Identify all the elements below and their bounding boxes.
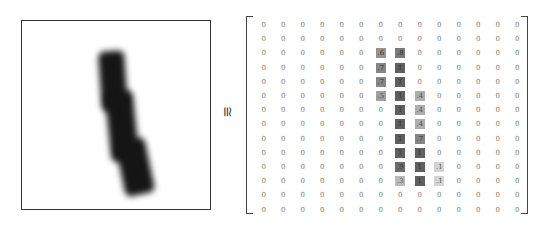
matrix-cell: 0 — [508, 188, 528, 202]
matrix-cell: 0 — [254, 117, 274, 131]
matrix-cell-value: 0 — [259, 20, 269, 30]
matrix-cell-value: 0 — [259, 34, 269, 44]
matrix-cell-value: 0 — [454, 48, 464, 58]
matrix-cell: 0 — [332, 89, 352, 103]
matrix-cell-value: 0 — [298, 77, 308, 87]
matrix-cell-value: 0 — [454, 205, 464, 215]
matrix-cell: 0 — [391, 32, 411, 46]
matrix-cell-value: 0 — [493, 205, 503, 215]
matrix-cell: 0 — [430, 202, 450, 216]
matrix-cell-value: 0 — [259, 148, 269, 158]
matrix-cell-value: 0 — [298, 162, 308, 172]
pixel-matrix: 0000000000000000000000000000000000.6.800… — [246, 16, 528, 214]
approx-equal-symbol: ≅ — [220, 106, 236, 118]
matrix-cell-value: 0 — [356, 190, 366, 200]
matrix-cell-value: 0 — [493, 190, 503, 200]
matrix-cell: 0 — [274, 18, 294, 32]
matrix-cell-value: 0 — [259, 77, 269, 87]
matrix-cell: 0 — [352, 61, 372, 75]
matrix-cell: 0 — [508, 146, 528, 160]
matrix-cell: 0 — [488, 132, 508, 146]
matrix-cell: 0 — [293, 117, 313, 131]
matrix-cell: 0 — [508, 174, 528, 188]
matrix-cell-value: 0 — [356, 134, 366, 144]
matrix-cell-value: 0 — [337, 162, 347, 172]
matrix-cell: 0 — [313, 103, 333, 117]
matrix-cell-value: 0 — [473, 91, 483, 101]
matrix-cell: .9 — [391, 160, 411, 174]
matrix-cell: 0 — [274, 132, 294, 146]
matrix-cell-value: 0 — [278, 91, 288, 101]
matrix-cell-value: 0 — [337, 34, 347, 44]
matrix-cell: 0 — [313, 61, 333, 75]
matrix-cell-value: 0 — [512, 20, 522, 30]
matrix-cell: 0 — [430, 103, 450, 117]
matrix-cell-value: 0 — [337, 205, 347, 215]
matrix-cell-value: 0 — [356, 34, 366, 44]
matrix-cell-value: .5 — [376, 91, 386, 101]
matrix-cell-value: 0 — [415, 20, 425, 30]
matrix-cell-value: 0 — [356, 105, 366, 115]
matrix-cell: 0 — [469, 18, 489, 32]
matrix-cell-value: .1 — [434, 176, 444, 186]
matrix-cell-value: 0 — [278, 205, 288, 215]
matrix-cell: 0 — [391, 188, 411, 202]
matrix-cell-value: 0 — [337, 190, 347, 200]
matrix-cell-value: 0 — [317, 162, 327, 172]
matrix-cell-value: 0 — [512, 205, 522, 215]
matrix-cell-value: 0 — [317, 105, 327, 115]
matrix-cell-value: 0 — [454, 77, 464, 87]
matrix-cell: 0 — [332, 146, 352, 160]
matrix-cell-value: .4 — [415, 105, 425, 115]
matrix-cell-value: .1 — [434, 162, 444, 172]
matrix-cell-value: 0 — [473, 176, 483, 186]
matrix-cell-value: 0 — [356, 48, 366, 58]
matrix-cell-value: 0 — [356, 20, 366, 30]
matrix-cell-value: 1 — [395, 105, 405, 115]
matrix-cell: 0 — [449, 132, 469, 146]
matrix-cell-value: 0 — [473, 190, 483, 200]
matrix-cell-value: 0 — [395, 20, 405, 30]
matrix-cell: 0 — [293, 75, 313, 89]
matrix-cell: 0 — [274, 174, 294, 188]
matrix-cell-value: 0 — [434, 205, 444, 215]
matrix-cell-value: 0 — [454, 63, 464, 73]
matrix-cell: 0 — [293, 132, 313, 146]
matrix-cell-value: 0 — [473, 134, 483, 144]
matrix-cell-value: 0 — [493, 105, 503, 115]
matrix-cell-value: 0 — [298, 190, 308, 200]
matrix-cell: 0 — [430, 146, 450, 160]
matrix-cell-value: .3 — [395, 176, 405, 186]
matrix-cell-value: 0 — [415, 190, 425, 200]
matrix-cell: 0 — [488, 18, 508, 32]
matrix-cell-value: 0 — [356, 77, 366, 87]
matrix-cell-value: 0 — [415, 34, 425, 44]
matrix-cell-value: 0 — [473, 20, 483, 30]
matrix-cell-value: 0 — [278, 134, 288, 144]
matrix-cell-value: 0 — [454, 176, 464, 186]
matrix-cell-value: 0 — [317, 20, 327, 30]
matrix-cell: 0 — [449, 46, 469, 60]
matrix-cell: 0 — [430, 46, 450, 60]
matrix-cell: 0 — [371, 160, 391, 174]
matrix-cell: .7 — [371, 61, 391, 75]
matrix-cell: 0 — [293, 202, 313, 216]
matrix-cell: 0 — [293, 46, 313, 60]
matrix-cell-value: 0 — [317, 134, 327, 144]
matrix-cell: 0 — [313, 32, 333, 46]
matrix-cell-value: 0 — [337, 176, 347, 186]
matrix-cell: 0 — [488, 160, 508, 174]
matrix-cell: 0 — [254, 75, 274, 89]
matrix-grid: 0000000000000000000000000000000000.6.800… — [254, 18, 527, 217]
matrix-cell: .7 — [371, 75, 391, 89]
matrix-cell: 0 — [469, 117, 489, 131]
matrix-cell-value: 0 — [337, 105, 347, 115]
matrix-cell: 0 — [410, 202, 430, 216]
matrix-cell-value: 0 — [493, 162, 503, 172]
matrix-cell-value: .7 — [376, 63, 386, 73]
matrix-cell-value: 0 — [278, 20, 288, 30]
matrix-cell: 0 — [293, 146, 313, 160]
matrix-cell-value: 0 — [493, 77, 503, 87]
matrix-cell: 0 — [488, 75, 508, 89]
matrix-cell: 0 — [469, 160, 489, 174]
